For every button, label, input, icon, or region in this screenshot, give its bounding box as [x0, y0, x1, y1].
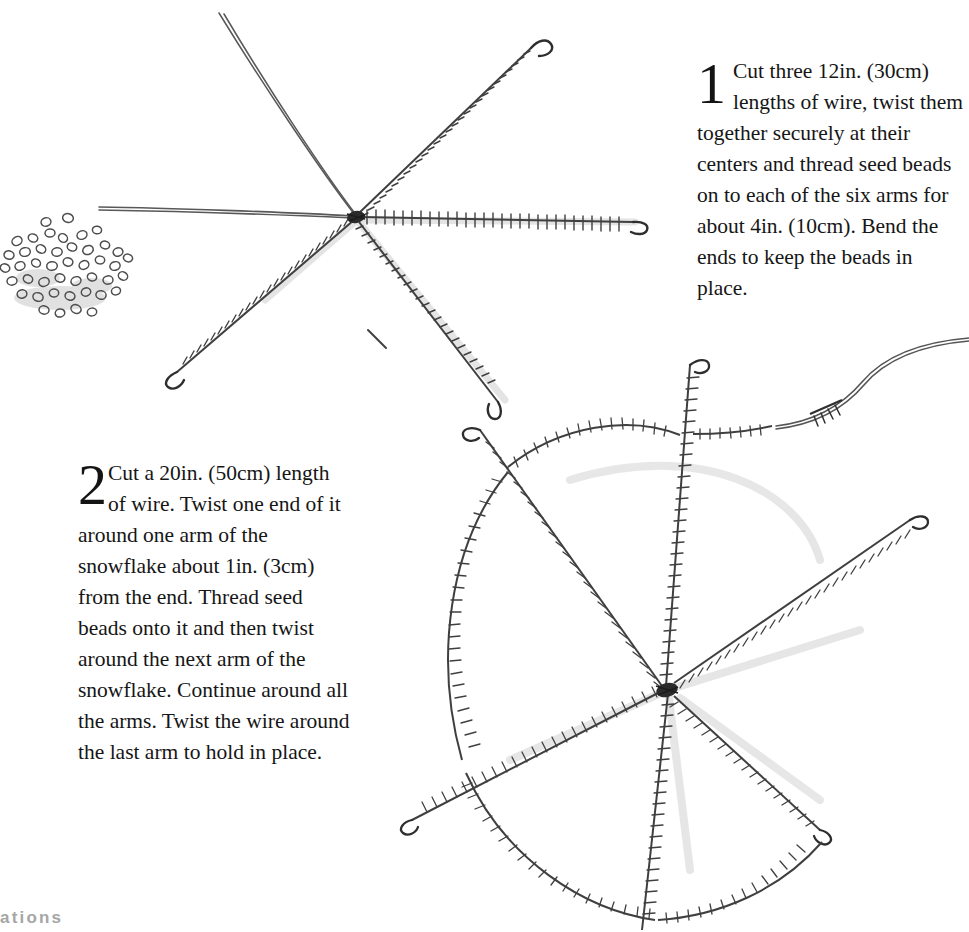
- flake2-hook-upper-right: [910, 516, 928, 528]
- step-1-paragraph: 1Cut three 12in. (30cm) lengths of wire,…: [697, 56, 963, 304]
- flake2-loose-wire-tail: [776, 338, 969, 429]
- snowflake-step-2-illustration: [390, 330, 969, 932]
- snowflake-2-shadow: [510, 466, 860, 870]
- arm-lower-left-beaded: [166, 219, 354, 389]
- step-1-text: Cut three 12in. (30cm) lengths of wire, …: [697, 59, 963, 300]
- arm-left-plain-wire: [99, 207, 353, 218]
- flake2-hook-lower-left: [401, 820, 418, 835]
- step-2-number: 2: [78, 460, 107, 510]
- running-head-partial: ations: [0, 908, 63, 928]
- flake2-arm-lower-right: [670, 696, 831, 844]
- flake2-arm-up: [660, 360, 709, 686]
- flake2-hook-up: [690, 360, 709, 373]
- step-1-block: 1Cut three 12in. (30cm) lengths of wire,…: [697, 56, 963, 304]
- step-2-text: Cut a 20in. (50cm) length of wire. Twist…: [78, 461, 350, 764]
- step-2-block: 2Cut a 20in. (50cm) length of wire. Twis…: [78, 458, 350, 768]
- flake2-arm-upper-right: [674, 516, 928, 688]
- step-1-number: 1: [697, 59, 726, 109]
- instruction-page: 1Cut three 12in. (30cm) lengths of wire,…: [0, 0, 969, 932]
- arm-hook-upper-right: [531, 41, 552, 56]
- arm-upper-right-beaded: [358, 41, 552, 216]
- arm-hook-lower-left: [166, 372, 184, 389]
- flake2-hook-lower-right: [814, 830, 831, 844]
- step-2-paragraph: 2Cut a 20in. (50cm) length of wire. Twis…: [78, 458, 350, 768]
- arm-upper-left-plain-wire: [219, 13, 357, 216]
- flake2-hook-upper-left: [463, 428, 480, 441]
